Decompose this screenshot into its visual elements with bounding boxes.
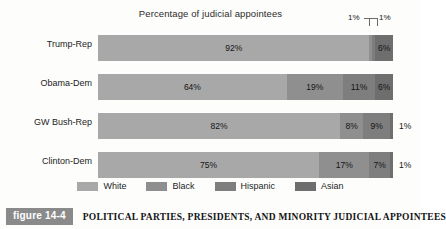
segment-value-label-outside: 1% — [399, 152, 411, 178]
segment-value-label: 92% — [225, 44, 242, 53]
stacked-bar: 64%19%11%6% — [98, 74, 393, 100]
callout-leader-vertical-left — [369, 18, 370, 26]
figure-caption-text: POLITICAL PARTIES, PRESIDENTS, AND MINOR… — [83, 212, 446, 222]
segment-value-label: 17% — [336, 161, 353, 170]
chart-row: Obama-Dem64%19%11%6% — [0, 70, 421, 97]
stacked-bar: 92%6% — [98, 35, 393, 61]
category-label: Clinton-Dem — [8, 148, 92, 175]
segment-value-label: 8% — [346, 122, 358, 131]
callout-leader-vertical-right — [377, 18, 378, 26]
bar-segment-white: 92% — [98, 35, 369, 61]
segment-value-label: 9% — [371, 122, 383, 131]
segment-value-label: 82% — [210, 122, 227, 131]
bar-segment-asian — [390, 113, 393, 139]
bar-segment-white: 64% — [98, 74, 287, 100]
bar-segment-black: 8% — [340, 113, 364, 139]
callout-label-hispanic-1pct: 1% — [379, 14, 391, 22]
bar-segment-asian — [390, 152, 393, 178]
stacked-bar: 82%8%9% — [98, 113, 393, 139]
legend-item-black: Black — [146, 181, 194, 191]
category-label: Obama-Dem — [8, 70, 92, 97]
segment-value-label: 6% — [378, 44, 390, 53]
callout-label-black-1pct: 1% — [348, 14, 360, 22]
category-label: GW Bush-Rep — [8, 109, 92, 136]
segment-value-label: 6% — [378, 83, 390, 92]
bar-segment-asian: 6% — [375, 35, 393, 61]
segment-value-label-outside: 1% — [399, 113, 411, 139]
legend-label: Asian — [321, 181, 344, 191]
legend-label: Hispanic — [241, 181, 276, 191]
bar-segment-hispanic: 7% — [369, 152, 390, 178]
figure-number-badge: figure 14-4 — [6, 208, 73, 225]
segment-value-label: 19% — [306, 83, 323, 92]
segment-value-label: 11% — [351, 83, 367, 92]
bar-segment-white: 75% — [98, 152, 319, 178]
callout-leader-horizontal — [364, 18, 378, 19]
chart-row: Clinton-Dem75%17%7%1% — [0, 148, 421, 175]
legend-swatch-icon — [215, 182, 236, 191]
legend-item-white: White — [77, 181, 126, 191]
bar-segment-hispanic: 11% — [343, 74, 375, 100]
bar-segment-black: 19% — [287, 74, 343, 100]
bar-segment-asian: 6% — [375, 74, 393, 100]
legend-swatch-icon — [146, 182, 167, 191]
legend-label: Black — [172, 181, 194, 191]
category-label: Trump-Rep — [8, 31, 92, 58]
legend-item-asian: Asian — [295, 181, 344, 191]
legend-swatch-icon — [77, 182, 98, 191]
plot-area: Trump-Rep92%6%Obama-Dem64%19%11%6%GW Bus… — [0, 26, 421, 178]
chart-legend: WhiteBlackHispanicAsian — [0, 181, 421, 191]
segment-value-label: 75% — [200, 161, 217, 170]
legend-swatch-icon — [295, 182, 316, 191]
bar-segment-hispanic: 9% — [363, 113, 390, 139]
legend-label: White — [103, 181, 126, 191]
legend-item-hispanic: Hispanic — [215, 181, 276, 191]
bar-segment-white: 82% — [98, 113, 340, 139]
bar-segment-black: 17% — [319, 152, 369, 178]
chart-row: Trump-Rep92%6% — [0, 31, 421, 58]
stacked-bar: 75%17%7% — [98, 152, 393, 178]
segment-value-label: 7% — [374, 161, 386, 170]
figure-caption: figure 14-4 POLITICAL PARTIES, PRESIDENT… — [0, 204, 421, 229]
segment-value-label: 64% — [184, 83, 201, 92]
chart-row: GW Bush-Rep82%8%9%1% — [0, 109, 421, 136]
